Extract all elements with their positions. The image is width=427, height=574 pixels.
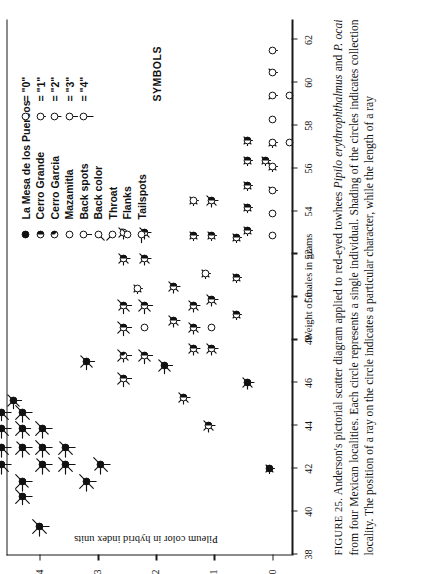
legend-row: Tailspots — [134, 9, 149, 241]
data-point — [133, 247, 155, 269]
data-point — [75, 350, 97, 372]
data-point — [236, 174, 258, 196]
data-point — [261, 39, 283, 61]
legend-label: Back spots — [78, 163, 89, 219]
y-axis-tick — [39, 554, 40, 560]
legend-row: Flanks — [120, 9, 135, 241]
circle-with-ray-icon — [76, 101, 90, 123]
legend-label: Throat — [107, 186, 118, 219]
data-point — [133, 316, 155, 338]
caption-part-3: from four Mexican localities. Each circl… — [347, 19, 376, 555]
species-name-2: P. ocai — [331, 19, 344, 51]
legend-label: Cerro Garcia — [49, 155, 60, 219]
legend-value-label: = "2" — [48, 76, 60, 101]
y-axis-tick — [272, 554, 273, 560]
data-point — [278, 84, 300, 106]
y-axis-tick — [155, 554, 156, 560]
data-point — [133, 344, 155, 366]
data-point — [54, 436, 76, 458]
y-axis-tick — [97, 554, 98, 560]
data-point — [261, 202, 283, 224]
circle-ray-w-icon — [134, 219, 148, 241]
data-point — [225, 266, 247, 288]
data-point — [11, 436, 33, 458]
data-point — [89, 453, 111, 475]
x-axis-line — [291, 19, 293, 555]
y-axis-tick — [213, 554, 214, 560]
data-point — [11, 470, 33, 492]
data-point — [236, 371, 258, 393]
legend-label: Back color — [92, 165, 103, 219]
scatter-figure: 3840424446485052545658606201234 — [0, 0, 318, 573]
data-point — [194, 262, 216, 284]
data-point — [112, 247, 134, 269]
legend-value-row: = "4" — [76, 76, 90, 123]
data-point — [261, 108, 283, 130]
figure-number: FIGURE 25. — [332, 497, 343, 555]
legend-row: Back color — [91, 9, 106, 241]
figure-caption: FIGURE 25. Anderson's pictorial scatter … — [330, 19, 377, 555]
legend-value-label: = "0" — [19, 76, 31, 101]
data-point — [31, 436, 53, 458]
data-point — [126, 277, 148, 299]
data-point — [225, 303, 247, 325]
data-point — [278, 131, 300, 153]
data-point — [200, 316, 222, 338]
legend-label: Tailspots — [136, 174, 147, 219]
y-axis-tick-label: 3 — [92, 569, 103, 574]
legend-label: Flanks — [121, 186, 132, 219]
data-point — [200, 337, 222, 359]
data-point — [162, 275, 184, 297]
y-axis-tick-label: 2 — [150, 569, 161, 574]
x-axis-title: Weight of males in grams — [302, 19, 313, 555]
data-point — [162, 309, 184, 331]
legend-row: Throat — [105, 9, 120, 241]
legend-value-label: = "3" — [63, 76, 75, 101]
legend-title: SYMBOLS — [150, 46, 162, 101]
caption-part-1: Anderson's pictorial scatter diagram app… — [331, 188, 344, 495]
data-point — [112, 316, 134, 338]
data-point — [200, 224, 222, 246]
legend-label: Cerro Grande — [34, 151, 45, 219]
legend-row: Back spots= "4" — [76, 9, 91, 241]
data-point — [200, 288, 222, 310]
caption-part-2: and — [331, 51, 344, 74]
data-point — [236, 129, 258, 151]
data-point — [261, 155, 283, 177]
data-point — [236, 196, 258, 218]
data-point — [153, 354, 175, 376]
data-point — [200, 189, 222, 211]
data-point — [261, 179, 283, 201]
legend-label: Mazamitla — [63, 169, 74, 219]
y-axis-tick-label: 4 — [33, 569, 44, 574]
data-point — [261, 224, 283, 246]
data-point — [197, 414, 219, 436]
data-point — [236, 219, 258, 241]
data-point — [261, 61, 283, 83]
legend: La Mesa de los Puercos= "0" Cerro Grande… — [18, 9, 146, 241]
y-axis-tick-label: 1 — [208, 569, 219, 574]
legend-value-label: = "1" — [34, 76, 46, 101]
data-point — [172, 387, 194, 409]
data-point — [258, 457, 280, 479]
data-point — [31, 417, 53, 439]
data-point — [112, 367, 134, 389]
data-point — [2, 389, 24, 411]
species-name-1: Pipilo erythrophthalmus — [331, 74, 344, 188]
y-axis-title: Pileum color in hybrid index units — [16, 534, 276, 545]
legend-value-label: = "4" — [77, 76, 89, 101]
data-point — [112, 344, 134, 366]
y-axis-tick-label: 0 — [266, 569, 277, 574]
